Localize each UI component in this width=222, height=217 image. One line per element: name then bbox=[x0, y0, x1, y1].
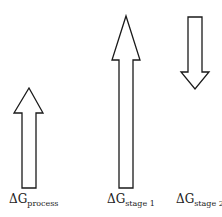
label-main: ΔG bbox=[107, 192, 125, 206]
label-subscript: stage 2 bbox=[194, 199, 222, 208]
arrow-up-icon bbox=[112, 16, 140, 188]
label-delta-g-stage-2: ΔGstage 2 bbox=[176, 193, 222, 208]
label-subscript: process bbox=[27, 199, 58, 208]
label-delta-g-process: ΔGprocess bbox=[9, 193, 58, 208]
energy-diagram bbox=[0, 0, 222, 217]
label-delta-g-stage-1: ΔGstage 1 bbox=[107, 193, 155, 208]
arrow-up-icon bbox=[14, 88, 43, 188]
label-subscript: stage 1 bbox=[125, 199, 155, 208]
label-main: ΔG bbox=[176, 192, 194, 206]
arrow-down-icon bbox=[181, 17, 209, 89]
label-main: ΔG bbox=[9, 192, 27, 206]
